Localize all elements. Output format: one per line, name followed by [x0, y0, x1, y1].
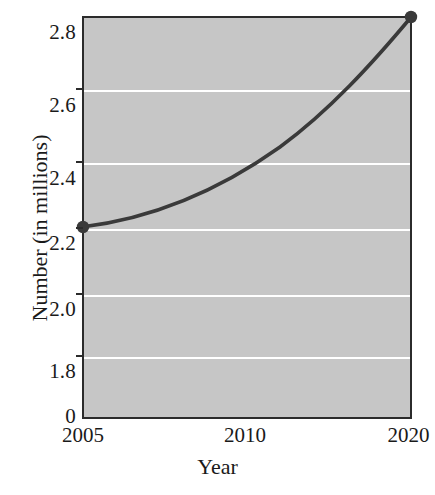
y-axis-title: Number (in millions)	[28, 108, 52, 348]
y-tick-mark-2.4	[76, 161, 83, 163]
x-tick-label-2020: 2020	[382, 424, 435, 447]
y-tick-label-2.8: 2.8	[30, 22, 76, 43]
y-tick-mark-2.2	[76, 227, 83, 229]
y-tick-label-1.8: 1.8	[30, 361, 76, 382]
x-tick-label-2010: 2010	[217, 424, 273, 447]
x-tick-label-2005: 2005	[55, 424, 111, 447]
data-point-2020	[405, 11, 417, 23]
chart-figure: 2.8 2.6 2.4 2.2 2.0 1.8 0 2005 2010 2020…	[0, 0, 435, 495]
y-tick-mark-1.8	[76, 355, 83, 357]
y-axis-title-holder: Number (in millions)	[12, 20, 36, 420]
y-tick-mark-2.0	[76, 293, 83, 295]
data-curve-layer	[82, 16, 412, 419]
y-tick-mark-2.6	[76, 88, 83, 90]
data-curve	[82, 16, 412, 227]
x-axis-title: Year	[0, 455, 435, 479]
